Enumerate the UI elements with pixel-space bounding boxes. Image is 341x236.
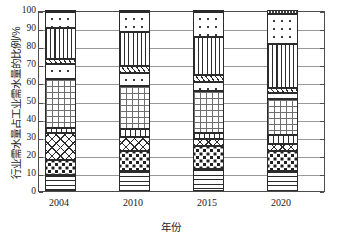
y-tick-label: 10 bbox=[14, 169, 36, 179]
plot-area bbox=[38, 11, 325, 192]
axis-tick-mark bbox=[39, 175, 43, 176]
bar-segment bbox=[193, 37, 224, 75]
axis-tick-mark bbox=[39, 84, 43, 85]
x-tick-label: 2004 bbox=[35, 198, 83, 208]
axis-tick-mark bbox=[39, 30, 43, 31]
bar-segment bbox=[119, 171, 150, 191]
bar-segment bbox=[267, 99, 298, 135]
bar-2010 bbox=[119, 10, 150, 191]
axis-tick-mark bbox=[39, 157, 43, 158]
bar-segment bbox=[119, 66, 150, 73]
bar-segment bbox=[267, 93, 298, 98]
axis-tick-mark bbox=[320, 192, 324, 193]
bar-segment bbox=[119, 10, 150, 12]
y-tick-label: 100 bbox=[14, 6, 36, 16]
axis-tick-mark bbox=[320, 30, 324, 31]
bar-segment bbox=[119, 129, 150, 136]
y-axis-tick-labels: 0102030405060708090100 bbox=[12, 0, 36, 236]
axis-tick-mark bbox=[320, 121, 324, 122]
y-tick-label: 0 bbox=[14, 187, 36, 197]
bar-segment bbox=[193, 146, 224, 170]
y-tick-label: 90 bbox=[14, 24, 36, 34]
bar-segment bbox=[119, 32, 150, 66]
bar-segment bbox=[119, 73, 150, 86]
axis-tick-mark bbox=[320, 103, 324, 104]
x-tick-label: 2010 bbox=[109, 198, 157, 208]
bar-segment bbox=[119, 12, 150, 32]
bar-segment bbox=[119, 151, 150, 171]
bar-2015 bbox=[193, 10, 224, 191]
bar-segment bbox=[119, 86, 150, 129]
bar-segment bbox=[193, 10, 224, 12]
axis-tick-mark bbox=[39, 48, 43, 49]
bar-segment bbox=[45, 12, 76, 28]
bar-segment bbox=[45, 128, 76, 133]
y-tick-label: 30 bbox=[14, 133, 36, 143]
axis-tick-mark bbox=[320, 139, 324, 140]
bar-segment bbox=[193, 169, 224, 191]
bar-segment bbox=[193, 12, 224, 37]
bar-segment bbox=[45, 133, 76, 160]
bar-segment bbox=[45, 64, 76, 78]
bar-segment bbox=[193, 75, 224, 82]
bar-segment bbox=[267, 88, 298, 93]
y-tick-label: 40 bbox=[14, 115, 36, 125]
bar-segment bbox=[267, 144, 298, 151]
axis-tick-mark bbox=[320, 66, 324, 67]
axis-tick-mark bbox=[39, 192, 43, 193]
bar-segment bbox=[45, 10, 76, 12]
axis-tick-mark bbox=[39, 121, 43, 122]
bar-segment bbox=[45, 160, 76, 174]
y-tick-label: 70 bbox=[14, 60, 36, 70]
bar-segment bbox=[267, 44, 298, 87]
chart-figure: 行业需水量占工业需水量的比例/% 0102030405060708090100 … bbox=[0, 0, 341, 236]
bar-segment bbox=[193, 139, 224, 146]
bar-segment bbox=[267, 10, 298, 14]
y-tick-label: 80 bbox=[14, 42, 36, 52]
x-axis-title: 年份 bbox=[0, 219, 341, 234]
axis-tick-mark bbox=[320, 175, 324, 176]
axis-tick-mark bbox=[39, 66, 43, 67]
bar-segment bbox=[267, 171, 298, 191]
bar-segment bbox=[45, 59, 76, 64]
axis-tick-mark bbox=[39, 139, 43, 140]
axis-tick-mark bbox=[320, 157, 324, 158]
bar-segment bbox=[119, 137, 150, 151]
bar-segment bbox=[193, 91, 224, 133]
bar-segment bbox=[45, 175, 76, 191]
axis-tick-mark bbox=[320, 84, 324, 85]
y-tick-label: 60 bbox=[14, 78, 36, 88]
x-tick-label: 2020 bbox=[257, 198, 305, 208]
axis-tick-mark bbox=[39, 103, 43, 104]
bar-segment bbox=[267, 14, 298, 45]
bar-2020 bbox=[267, 10, 298, 191]
bar-segment bbox=[267, 151, 298, 171]
bar-segment bbox=[193, 133, 224, 138]
bar-segment bbox=[45, 79, 76, 128]
y-tick-label: 50 bbox=[14, 97, 36, 107]
y-tick-label: 20 bbox=[14, 151, 36, 161]
bar-segment bbox=[193, 82, 224, 91]
bar-segment bbox=[267, 135, 298, 144]
axis-tick-mark bbox=[320, 48, 324, 49]
axis-tick-mark bbox=[320, 12, 324, 13]
bar-2004 bbox=[45, 10, 76, 191]
x-tick-label: 2015 bbox=[183, 198, 231, 208]
bar-segment bbox=[45, 28, 76, 59]
axis-tick-mark bbox=[39, 12, 43, 13]
